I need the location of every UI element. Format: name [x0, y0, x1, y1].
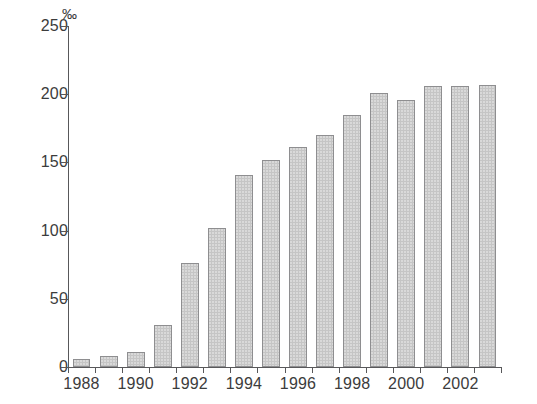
- x-tick-label-1992: 1992: [172, 376, 208, 392]
- x-tick-mark: [68, 367, 69, 373]
- bar-1995: [262, 160, 280, 367]
- bar-1994: [235, 175, 253, 367]
- y-tick-mark: [61, 299, 68, 300]
- bar-1998: [343, 115, 361, 367]
- x-tick-mark: [339, 367, 340, 373]
- x-tick-mark: [366, 367, 367, 373]
- bar-1989: [100, 356, 118, 367]
- x-tick-label-1994: 1994: [226, 376, 262, 392]
- bar-1991: [154, 325, 172, 367]
- x-tick-label-1988: 1988: [63, 376, 99, 392]
- x-tick-label-1998: 1998: [334, 376, 370, 392]
- x-tick-mark: [122, 367, 123, 373]
- x-tick-label-2002: 2002: [442, 376, 478, 392]
- x-tick-mark: [257, 367, 258, 373]
- x-tick-mark: [203, 367, 204, 373]
- y-tick-mark: [61, 94, 68, 95]
- bar-1993: [208, 228, 226, 367]
- x-tick-mark: [149, 367, 150, 373]
- x-tick-mark: [474, 367, 475, 373]
- y-tick-mark: [61, 367, 68, 368]
- bar-1988: [73, 359, 91, 367]
- x-tick-mark: [420, 367, 421, 373]
- bar-1997: [316, 135, 334, 367]
- x-tick-mark: [393, 367, 394, 373]
- bar-chart: ‰ 050100150200250 1988199019921994199619…: [0, 0, 537, 404]
- x-tick-mark: [95, 367, 96, 373]
- bar-2001: [424, 86, 442, 367]
- x-tick-mark: [312, 367, 313, 373]
- x-tick-label-2000: 2000: [388, 376, 424, 392]
- bar-1999: [370, 93, 388, 367]
- bar-1996: [289, 147, 307, 367]
- bar-1992: [181, 263, 199, 367]
- x-tick-label-1996: 1996: [280, 376, 316, 392]
- x-tick-mark: [230, 367, 231, 373]
- bars-container: [68, 26, 501, 367]
- bar-2000: [397, 100, 415, 367]
- x-tick-mark: [285, 367, 286, 373]
- y-tick-mark: [61, 231, 68, 232]
- x-tick-mark: [447, 367, 448, 373]
- bar-2003: [479, 85, 497, 367]
- y-tick-mark: [61, 162, 68, 163]
- bar-1990: [127, 352, 145, 367]
- x-tick-mark: [176, 367, 177, 373]
- x-tick-label-1990: 1990: [117, 376, 153, 392]
- bar-2002: [451, 86, 469, 367]
- y-tick-mark: [61, 26, 68, 27]
- x-tick-mark: [501, 367, 502, 373]
